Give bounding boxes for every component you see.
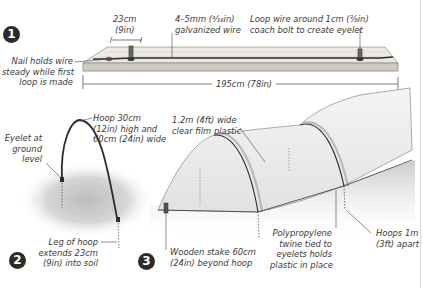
step-badge-1: 1 bbox=[3, 26, 20, 43]
wooden-stake bbox=[164, 203, 168, 213]
dimension-23cm bbox=[110, 37, 142, 43]
label-wooden-stake: Wooden stake 60cm (24in) beyond hoop bbox=[170, 247, 256, 268]
label-spacing-23cm: 23cm (9in) bbox=[113, 14, 136, 35]
label-nail: Nail holds wire steady while first loop … bbox=[2, 56, 73, 88]
galvanized-wire bbox=[93, 57, 393, 59]
right-edge-rule bbox=[420, 0, 421, 288]
soil-patch-step2 bbox=[19, 162, 155, 238]
label-board-length: 195cm (78in) bbox=[212, 79, 276, 90]
label-hoop-spacing: Hoops 1m (3ft) apart bbox=[376, 228, 419, 249]
label-twine: Polypropylene twine tied to eyelets hold… bbox=[270, 228, 332, 270]
label-hoop-size: Hoop 30cm (12in) high and 60cm (24in) wi… bbox=[93, 113, 166, 145]
label-eyelet: Eyelet at ground level bbox=[2, 133, 42, 165]
step-badge-2: 2 bbox=[9, 252, 26, 269]
label-clear-film: 1.2m (4ft) wide clear film plastic bbox=[172, 115, 241, 136]
label-coach-bolt: Loop wire around 1cm (⅜in) coach bolt to… bbox=[250, 14, 357, 35]
label-wire-gauge: 4–5mm (³⁄₁₆in) galvanized wire bbox=[175, 14, 241, 35]
label-hoop-leg: Leg of hoop extends 23cm (9in) into soil bbox=[30, 237, 98, 269]
step-badge-3: 3 bbox=[138, 253, 155, 270]
